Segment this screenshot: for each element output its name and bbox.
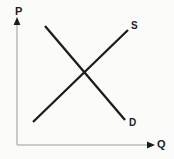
supply-curve-label: S <box>131 21 138 31</box>
quantity-axis-arrow-icon <box>147 142 155 149</box>
demand-curve-label: D <box>129 118 136 128</box>
supply-demand-diagram: P Q S D <box>0 0 174 159</box>
demand-curve-line <box>45 26 125 120</box>
quantity-axis-label: Q <box>157 139 166 150</box>
price-axis-arrow-icon <box>14 17 21 25</box>
diagram-canvas <box>0 0 174 159</box>
price-axis-label: P <box>15 6 22 17</box>
